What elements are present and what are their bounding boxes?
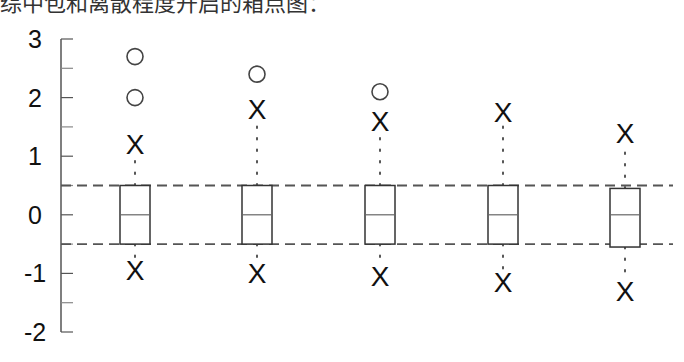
y-tick-label: -2 [24, 318, 46, 346]
outlier-point [372, 84, 388, 100]
whisker-high-marker: X [126, 129, 145, 160]
whisker-low-marker: X [616, 276, 635, 307]
box-group: XX [488, 97, 518, 298]
whisker-high-marker: X [371, 106, 390, 137]
y-tick-label: 1 [28, 142, 42, 170]
whisker-high-marker: X [494, 97, 513, 128]
box-group: XX [242, 66, 272, 289]
whisker-low-marker: X [494, 267, 513, 298]
iqr-box [610, 188, 640, 247]
box-group: XX [610, 118, 640, 307]
whisker-high-marker: X [616, 118, 635, 149]
whisker-low-marker: X [371, 261, 390, 292]
outlier-point [249, 66, 265, 82]
outlier-point [127, 90, 143, 106]
whisker-low-marker: X [126, 255, 145, 286]
whisker-low-marker: X [248, 258, 267, 289]
y-tick-label: -1 [24, 259, 46, 287]
y-tick-label: 3 [28, 25, 42, 53]
box-group: XX [120, 49, 150, 287]
y-tick-label: 0 [28, 201, 42, 229]
whisker-high-marker: X [248, 94, 267, 125]
y-tick-label: 2 [28, 84, 42, 112]
outlier-point [127, 49, 143, 65]
boxes: XXXXXXXXXX [120, 49, 640, 307]
box-group: XX [365, 84, 395, 293]
box-plot-chart: 3210-1-2 XXXXXXXXXX [0, 0, 684, 362]
